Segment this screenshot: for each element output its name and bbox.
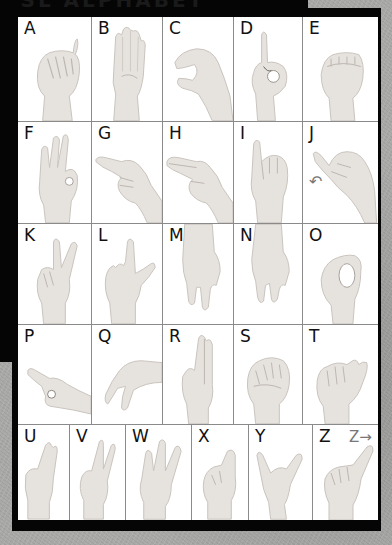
cell-r: R	[163, 325, 234, 424]
hand-sign-h-icon	[163, 122, 233, 223]
hand-sign-j-icon	[303, 122, 378, 223]
hand-sign-g-icon	[92, 122, 162, 223]
hand-sign-o-icon	[303, 224, 378, 324]
row-f-j: F G H I	[18, 122, 378, 224]
cell-s: S	[234, 325, 303, 424]
row-k-o: K L M N O	[18, 224, 378, 325]
cell-q: Q	[92, 325, 163, 424]
cell-p: P	[18, 325, 92, 424]
hand-sign-w-icon	[126, 425, 191, 520]
cell-v: V	[70, 425, 126, 520]
row-u-z: U V W X Y	[18, 425, 378, 520]
hand-sign-m-icon	[163, 224, 233, 324]
hand-sign-a-icon	[18, 17, 91, 121]
hand-sign-f-icon	[18, 122, 91, 223]
hand-sign-q-icon	[92, 325, 162, 424]
cell-y: Y	[249, 425, 313, 520]
hand-sign-r-icon	[163, 325, 233, 424]
hand-sign-c-icon	[163, 17, 233, 121]
hand-sign-e-icon	[303, 17, 378, 121]
hand-sign-k-icon	[18, 224, 91, 324]
cell-x: X	[192, 425, 249, 520]
cell-w: W	[126, 425, 192, 520]
hand-sign-t-icon	[303, 325, 378, 424]
cell-c: C	[163, 17, 234, 121]
hand-sign-b-icon	[92, 17, 162, 121]
cell-l: L	[92, 224, 163, 324]
hand-sign-d-icon	[234, 17, 302, 121]
cell-u: U	[18, 425, 70, 520]
hand-sign-n-icon	[234, 224, 302, 324]
row-p-t: P Q R S T	[18, 325, 378, 425]
cell-j: J ↶	[303, 122, 378, 223]
cell-a: A	[18, 17, 92, 121]
hand-sign-i-icon	[234, 122, 302, 223]
cell-g: G	[92, 122, 163, 223]
cell-f: F	[18, 122, 92, 223]
cell-o: O	[303, 224, 378, 324]
row-a-e: A B C D	[18, 17, 378, 122]
cell-t: T	[303, 325, 378, 424]
hand-sign-l-icon	[92, 224, 162, 324]
hand-sign-s-icon	[234, 325, 302, 424]
hand-sign-v-icon	[70, 425, 125, 520]
cell-b: B	[92, 17, 163, 121]
cell-d: D	[234, 17, 303, 121]
cell-z: Z Z→	[313, 425, 378, 520]
hand-sign-u-icon	[18, 425, 69, 520]
cell-i: I	[234, 122, 303, 223]
cell-k: K	[18, 224, 92, 324]
hand-sign-p-icon	[18, 325, 91, 424]
alphabet-panel: A B C D	[18, 17, 378, 520]
cell-m: M	[163, 224, 234, 324]
cell-n: N	[234, 224, 303, 324]
hand-sign-y-icon	[249, 425, 312, 520]
cell-h: H	[163, 122, 234, 223]
hand-sign-z-icon	[313, 425, 378, 520]
hand-sign-x-icon	[192, 425, 248, 520]
cell-e: E	[303, 17, 378, 121]
